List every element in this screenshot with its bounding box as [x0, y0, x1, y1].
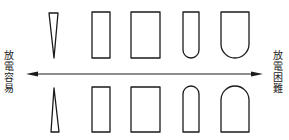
label-char: 電	[3, 61, 15, 72]
top-narrow-rounded-shape	[183, 12, 199, 58]
top-wide-rect-shape	[131, 12, 160, 58]
top-wide-rounded-shape	[221, 12, 249, 58]
label-char: 電	[272, 61, 284, 72]
bottom-wide-rect-shape	[131, 87, 160, 132]
bidirectional-arrow	[26, 72, 263, 77]
label-char: 放	[272, 50, 284, 61]
bottom-cone-shape	[51, 88, 59, 132]
label-char: 困	[272, 72, 284, 83]
label-char: 容	[3, 72, 15, 83]
label-discharge-difficult: 放 電 困 難	[272, 50, 284, 94]
label-char: 易	[3, 83, 15, 94]
bottom-wide-rounded-shape	[221, 86, 249, 132]
label-char: 放	[3, 50, 15, 61]
top-narrow-rect-shape	[92, 12, 110, 58]
bottom-narrow-rounded-shape	[183, 86, 199, 132]
top-cone-shape	[49, 13, 58, 58]
label-char: 難	[272, 83, 284, 94]
arrow-left-head-icon	[26, 72, 38, 77]
label-discharge-easy: 放 電 容 易	[3, 50, 15, 94]
bottom-narrow-rect-shape	[92, 87, 110, 132]
arrow-right-head-icon	[251, 72, 263, 77]
diagram-canvas	[0, 0, 289, 140]
